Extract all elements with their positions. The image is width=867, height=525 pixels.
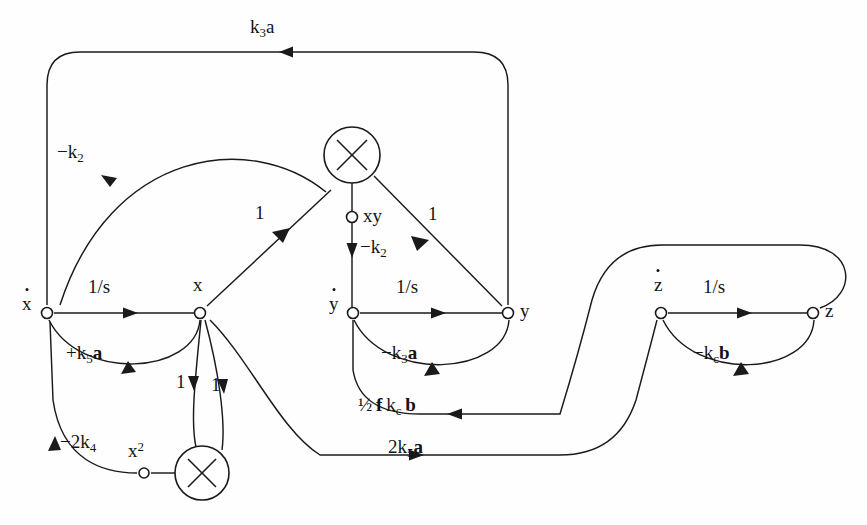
z-text: z bbox=[825, 300, 833, 321]
multiplier-top bbox=[324, 127, 380, 183]
edge-neg-kcb bbox=[663, 320, 814, 365]
edge-label-neg-kcb: −kcb bbox=[693, 343, 730, 366]
node-label-x2: x2 bbox=[128, 441, 144, 460]
edge-label-neg-k2-mid: −k2 bbox=[360, 237, 387, 260]
xy-text: xy bbox=[363, 205, 382, 226]
edge-label-inv-s-y: 1/s bbox=[396, 277, 418, 296]
multiplier-bottom bbox=[175, 446, 229, 500]
edge-y-to-mult-top bbox=[374, 176, 502, 306]
node-x[interactable] bbox=[195, 308, 206, 319]
arrow-inv-s-y bbox=[431, 308, 446, 319]
zdot-text: z bbox=[654, 275, 662, 294]
arrow-x-to-mult-top bbox=[272, 228, 290, 243]
edge-label-one-b: 1 bbox=[211, 375, 221, 394]
arrow-k3a bbox=[279, 47, 293, 58]
y-text: y bbox=[520, 300, 530, 321]
edge-two-k5a bbox=[210, 320, 657, 455]
x2-base: x bbox=[128, 440, 138, 461]
ydot-text: y bbox=[329, 294, 339, 313]
edge-label-one-right: 1 bbox=[428, 204, 438, 223]
arrow-one-a bbox=[188, 376, 199, 391]
node-label-zdot: z bbox=[654, 275, 662, 294]
edge-label-neg-2k4: −2k4 bbox=[60, 432, 96, 455]
arrow-inv-s-z bbox=[737, 308, 752, 319]
arrow-y-to-mult-top bbox=[411, 236, 429, 251]
node-label-x: x bbox=[193, 275, 203, 294]
node-xdot[interactable] bbox=[42, 308, 53, 319]
node-x2[interactable] bbox=[139, 468, 149, 478]
edge-label-k3a: k3a bbox=[250, 17, 274, 40]
node-label-z: z bbox=[825, 301, 833, 320]
node-zdot[interactable] bbox=[656, 308, 667, 319]
node-xy[interactable] bbox=[347, 212, 358, 223]
edge-label-inv-s-x: 1/s bbox=[88, 277, 110, 296]
node-ydot[interactable] bbox=[348, 308, 359, 319]
node-label-xdot: x bbox=[22, 294, 32, 313]
signal-flow-graph-canvas: x x y y z z xy x2 k3a −k2 1 1 −k2 1/s 1/… bbox=[0, 0, 867, 525]
xdot-text: x bbox=[22, 294, 32, 313]
arrow-neg-k2-top bbox=[101, 175, 117, 187]
edge-label-two-k5a: 2k5a bbox=[388, 437, 423, 460]
edge-label-plus-k5a: +k5a bbox=[66, 343, 102, 366]
edge-label-half-fkcb: ½ f kc b bbox=[358, 395, 416, 418]
node-label-xy: xy bbox=[363, 206, 382, 225]
arrow-inv-s-x bbox=[123, 308, 138, 319]
arrow-neg-k2-mid bbox=[347, 243, 358, 258]
node-label-ydot: y bbox=[329, 294, 339, 313]
x2-exp: 2 bbox=[138, 439, 144, 454]
edge-label-inv-s-z: 1/s bbox=[703, 277, 725, 296]
node-y[interactable] bbox=[503, 308, 514, 319]
edge-label-neg-k2-top: −k2 bbox=[57, 142, 84, 165]
edge-label-one-left: 1 bbox=[255, 203, 265, 222]
edge-half-fkcb bbox=[353, 245, 846, 414]
edge-label-one-a: 1 bbox=[176, 372, 186, 391]
x-text: x bbox=[193, 274, 203, 295]
edge-label-neg-k3a: −k3a bbox=[381, 343, 417, 366]
node-label-y: y bbox=[520, 301, 530, 320]
arrow-half-fkcb bbox=[447, 409, 462, 420]
edge-neg-k3a bbox=[354, 320, 509, 365]
node-z[interactable] bbox=[808, 308, 819, 319]
edge-x-to-mult-top bbox=[207, 190, 331, 306]
